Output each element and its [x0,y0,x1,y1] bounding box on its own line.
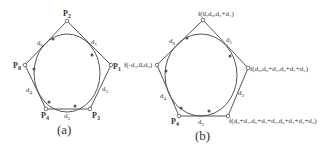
edge-label-d2-b: d2 [238,89,245,98]
panel-b: f(0,d₀,d₀+d₁) f(d₀,d₀+d₁,d₀+d₁+d₂) f(d₀+… [124,10,317,143]
panel-a: P2 P1 P0 P4 P3 d0 d1 d2 d3 d4 (a) [13,9,121,137]
vertex-label-bottom-right-b: f(d₀+d₁,d₀+d₁+d₂,d₀+d₁+d₂+d₃) [229,117,317,125]
edge-label-d3-b: d3 [198,118,205,127]
edge-label-d0-a: d0 [37,39,44,48]
edge-label-d1-a: d1 [91,38,98,47]
vertex-label-p3: P3 [92,111,100,121]
vertex-label-p1: P1 [113,62,121,72]
caption-a: (a) [57,122,71,137]
edge-label-d3-a: d3 [64,112,71,121]
vertex-label-p0: P0 [13,61,21,71]
vertex-label-p2: P2 [63,9,71,19]
vertex-label-right-b: f(d₀,d₀+d₁,d₀+d₁+d₂) [250,65,309,73]
diagram-canvas: P2 P1 P0 P4 P3 d0 d1 d2 d3 d4 (a) [0,0,333,149]
vertex-label-top-b: f(0,d₀,d₀+d₁) [198,10,234,18]
edge-label-d1-b: d1 [226,36,233,45]
edge-label-d2-a: d2 [102,85,109,94]
edge-label-d4-b: d4 [160,92,167,101]
closed-curve-b [165,34,237,116]
vertex-label-left-b: f(-d₄,0,d₀) [124,61,153,69]
vertex-markers-b [155,18,250,118]
vertex-label-p4: P4 [41,111,49,121]
vertex-label-p4-b: P4 [171,117,179,127]
caption-b: (b) [195,128,210,143]
edge-label-d4-a: d4 [26,86,33,95]
edge-label-d0-b: d0 [169,37,176,46]
